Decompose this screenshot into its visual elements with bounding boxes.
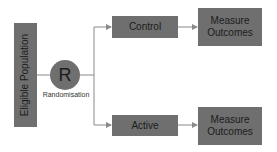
control-arm-label: Control (129, 21, 161, 33)
control-outcome-box: Measure Outcomes (198, 8, 262, 46)
active-arm-label: Active (131, 120, 158, 132)
eligible-population-box: Eligible Population (14, 23, 37, 127)
control-arm-box: Control (112, 16, 178, 38)
active-outcome-label: Measure Outcomes (198, 114, 262, 138)
randomisation-symbol: R (59, 65, 72, 86)
active-arm-box: Active (112, 115, 178, 136)
randomisation-label: Randomisation (38, 91, 94, 98)
control-outcome-label: Measure Outcomes (198, 15, 262, 39)
eligible-population-label: Eligible Population (20, 34, 32, 116)
randomisation-node: R (50, 60, 80, 90)
active-outcome-box: Measure Outcomes (198, 107, 262, 145)
